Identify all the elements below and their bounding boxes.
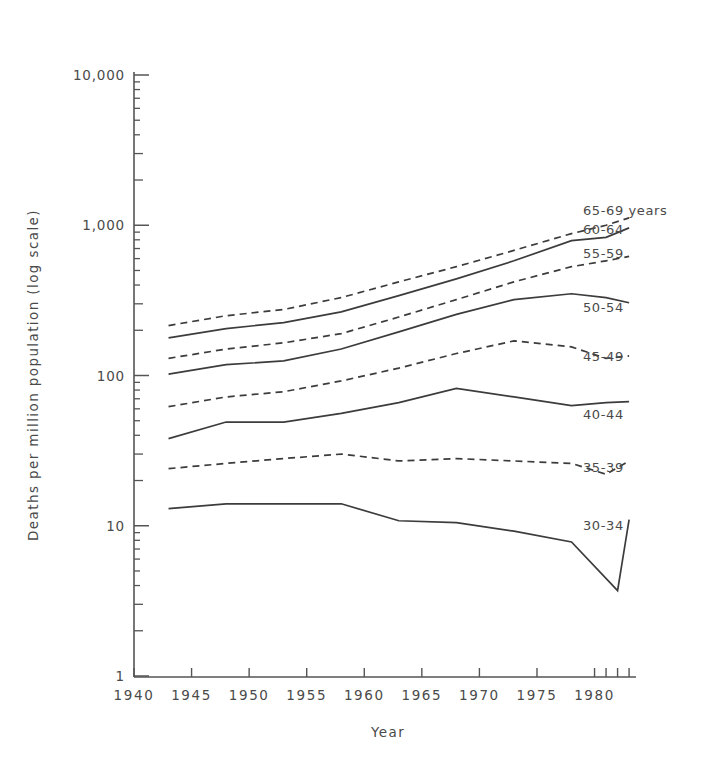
figure-container: 10,0001,000100101 1940194519501955196019… (0, 0, 707, 774)
x-tick-label: 1940 (114, 687, 155, 703)
series-line-40-44 (169, 388, 630, 438)
x-tick-label: 1960 (344, 687, 385, 703)
line-chart: 10,0001,000100101 1940194519501955196019… (0, 0, 707, 774)
x-tick-label: 1965 (401, 687, 442, 703)
series-label-40-44: 40-44 (583, 407, 624, 422)
y-axis-ticks (134, 75, 149, 676)
series-line-45-49 (169, 341, 630, 407)
y-axis-title: Deaths per million population (log scale… (25, 209, 41, 541)
series-label-60-64: 60-64 (583, 222, 624, 237)
y-tick-label: 1 (116, 668, 125, 684)
series-line-30-34 (169, 504, 630, 591)
series-line-55-59 (169, 256, 630, 358)
series-label-30-34: 30-34 (583, 518, 624, 533)
x-tick-label: 1945 (171, 687, 212, 703)
data-series-group (169, 218, 630, 591)
series-label-group: 65-69 years60-6455-5950-5445-4940-4435-3… (583, 203, 667, 533)
x-tick-label: 1980 (574, 687, 615, 703)
series-label-35-39: 35-39 (583, 460, 624, 475)
y-tick-label: 100 (97, 368, 125, 384)
y-tick-label: 10,000 (73, 67, 125, 83)
series-line-60-64 (169, 228, 630, 338)
series-line-50-54 (169, 294, 630, 374)
series-line-35-39 (169, 454, 630, 474)
y-tick-label: 1,000 (82, 217, 125, 233)
series-label-65-69-years: 65-69 years (583, 203, 667, 218)
x-axis-tick-labels: 194019451950195519601965197019751980 (114, 687, 615, 703)
x-tick-label: 1975 (517, 687, 558, 703)
series-line-65-69-years (169, 218, 630, 326)
series-label-50-54: 50-54 (583, 300, 624, 315)
axes (134, 72, 636, 677)
y-axis-tick-labels: 10,0001,000100101 (73, 67, 125, 684)
x-axis-title: Year (370, 724, 405, 740)
x-tick-label: 1970 (459, 687, 500, 703)
x-tick-label: 1955 (286, 687, 327, 703)
series-label-55-59: 55-59 (583, 246, 624, 261)
x-tick-label: 1950 (229, 687, 270, 703)
y-tick-label: 10 (106, 518, 125, 534)
series-label-45-49: 45-49 (583, 349, 624, 364)
x-axis-ticks (134, 668, 629, 677)
